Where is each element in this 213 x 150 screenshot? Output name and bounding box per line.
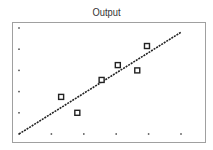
x-tick-dot [83, 133, 85, 135]
y-tick-dot [18, 91, 20, 93]
plot-frame [13, 23, 206, 143]
scatter-point-square-icon [99, 77, 104, 82]
y-tick-dot [18, 48, 20, 50]
x-tick-dot [148, 133, 150, 135]
y-tick-dot [18, 27, 20, 29]
scatter-points [59, 44, 150, 116]
y-tick-dot [18, 70, 20, 72]
scatter-point-square-icon [115, 63, 120, 68]
y-tick-dot [18, 112, 20, 114]
scatter-point-square-icon [75, 110, 80, 115]
x-tick-dot [180, 133, 182, 135]
x-tick-dot [51, 133, 53, 135]
scatter-point-square-icon [59, 94, 64, 99]
x-tick-dot [115, 133, 117, 135]
chart-plot-area [0, 0, 213, 150]
scatter-point-square-icon [135, 68, 140, 73]
scatter-point-square-icon [144, 44, 149, 49]
